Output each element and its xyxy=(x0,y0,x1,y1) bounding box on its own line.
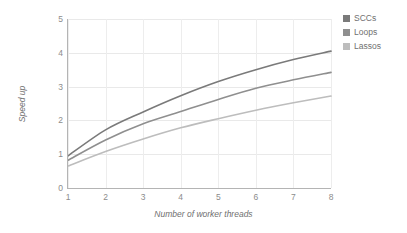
series-line-lassos xyxy=(68,96,331,166)
y-axis-tick-label: 2 xyxy=(49,116,63,125)
y-axis-tick-label: 4 xyxy=(49,49,63,58)
y-axis-tick-label: 0 xyxy=(49,184,63,193)
legend-swatch-icon xyxy=(343,29,350,36)
legend-item-sccs[interactable]: SCCs xyxy=(343,12,405,25)
x-axis-tick-label: 5 xyxy=(210,193,226,202)
gridline-vertical xyxy=(331,19,332,188)
y-axis-title: Speed up xyxy=(14,73,30,135)
y-axis-spine xyxy=(67,19,68,189)
y-axis-tick-label: 1 xyxy=(49,150,63,159)
speedup-line-chart: 012345 12345678 Speed up Number of worke… xyxy=(0,0,407,233)
legend-label: Lassos xyxy=(354,42,381,51)
y-axis-tick-label: 5 xyxy=(49,15,63,24)
series-line-loops xyxy=(68,72,331,160)
x-axis-spine xyxy=(67,188,331,189)
x-axis-tick-label: 4 xyxy=(173,193,189,202)
legend-item-lassos[interactable]: Lassos xyxy=(343,40,405,53)
x-axis-tick-label: 3 xyxy=(135,193,151,202)
y-axis-tick-label: 3 xyxy=(49,83,63,92)
series-lines xyxy=(68,19,331,188)
x-axis-title-text: Number of worker threads xyxy=(0,209,407,219)
y-axis-title-text: Speed up xyxy=(17,86,27,122)
legend-swatch-icon xyxy=(343,43,350,50)
x-axis-tick-label: 6 xyxy=(248,193,264,202)
plot-area xyxy=(68,19,331,188)
x-axis-tick-label: 8 xyxy=(323,193,339,202)
chart-legend: SCCsLoopsLassos xyxy=(343,12,405,54)
legend-label: SCCs xyxy=(354,14,376,23)
x-axis-tick-label: 7 xyxy=(285,193,301,202)
x-axis-tick-label: 2 xyxy=(98,193,114,202)
legend-label: Loops xyxy=(354,28,377,37)
legend-swatch-icon xyxy=(343,15,350,22)
x-axis-tick-label: 1 xyxy=(60,193,76,202)
legend-item-loops[interactable]: Loops xyxy=(343,26,405,39)
